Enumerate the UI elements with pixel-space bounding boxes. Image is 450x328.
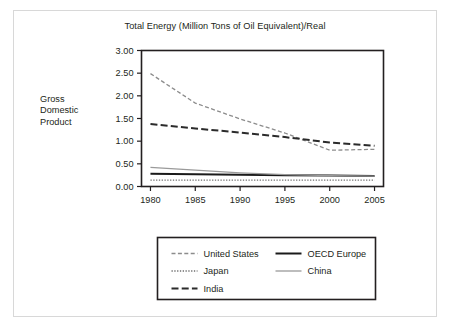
y-tick-label: 3.00 (116, 46, 134, 56)
legend-label-japan: Japan (204, 266, 229, 276)
x-tick-label: 2000 (319, 195, 339, 205)
x-tick-label: 2005 (364, 195, 384, 205)
y-axis-ticks: 0.000.501.001.502.002.503.00 (116, 46, 142, 192)
legend-label-oecd_europe: OECD Europe (308, 249, 367, 259)
x-axis-ticks: 198019851990199520002005 (140, 187, 385, 205)
y-tick-label: 1.50 (116, 114, 134, 124)
y-tick-label: 1.00 (116, 136, 134, 146)
series-line-india (150, 124, 374, 146)
x-tick-label: 1980 (140, 195, 160, 205)
line-chart-svg: 0.000.501.001.502.002.503.00 19801985199… (0, 0, 450, 328)
data-series-group (150, 74, 374, 181)
legend-label-united_states: United States (204, 249, 260, 259)
x-tick-label: 1985 (185, 195, 205, 205)
y-tick-label: 2.50 (116, 68, 134, 78)
legend-label-india: India (204, 284, 225, 294)
y-tick-label: 0.50 (116, 159, 134, 169)
x-tick-label: 1990 (230, 195, 250, 205)
figure-root: Total Energy (Million Tons of Oil Equiva… (0, 0, 450, 328)
legend-border (158, 238, 376, 300)
series-line-united_states (150, 74, 374, 151)
plot-frame (142, 51, 384, 187)
x-tick-label: 1995 (275, 195, 295, 205)
plot-and-legend-area: 0.000.501.001.502.002.503.00 19801985199… (0, 0, 450, 328)
y-tick-label: 0.00 (116, 182, 134, 192)
legend-label-china: China (308, 266, 333, 276)
plot-area-border (142, 51, 384, 187)
y-tick-label: 2.00 (116, 91, 134, 101)
chart-legend: United StatesJapanIndiaOECD EuropeChina (158, 238, 376, 300)
